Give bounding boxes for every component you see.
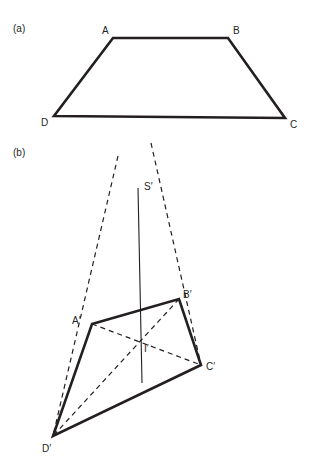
panel-a-graphics (54, 38, 285, 118)
figure-canvas (0, 0, 318, 475)
ray-S-through-A-to-D (53, 156, 118, 436)
vertical-axis-line (138, 188, 142, 383)
panel-label-b: (b) (13, 148, 25, 158)
panel-b-graphics (53, 143, 201, 436)
vertex-label-C: C (290, 120, 297, 130)
vertex-label-D: D (41, 118, 48, 128)
trapezoid-ABCD (54, 38, 285, 118)
vertex-label-A-prime: A′ (72, 316, 81, 326)
vertex-label-D-prime: D′ (42, 444, 51, 454)
vertex-label-C-prime: C′ (206, 362, 215, 372)
panel-label-a: (a) (13, 24, 25, 34)
vertex-label-S-prime: S′ (144, 182, 153, 192)
vertex-label-B-prime: B′ (183, 290, 192, 300)
vertex-label-B: B (233, 26, 240, 36)
ray-S-through-B-to-C (151, 143, 201, 365)
vertex-label-A: A (102, 26, 109, 36)
figure-root: (a) (b) A B C D A′ B′ C′ D′ S′ I′ (0, 0, 318, 475)
vertex-label-I-prime: I′ (144, 344, 149, 354)
